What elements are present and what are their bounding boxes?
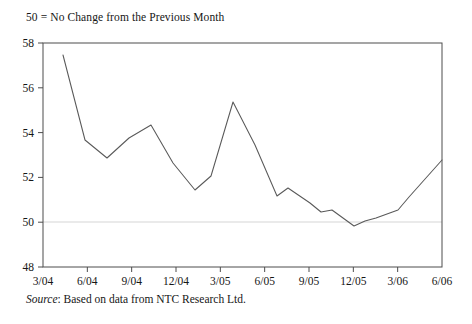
x-axis-tick-label: 6/04 bbox=[77, 275, 98, 287]
x-axis-tick-label: 9/05 bbox=[299, 275, 320, 287]
x-axis-tick-label: 3/05 bbox=[210, 275, 231, 287]
y-axis-tick-label: 52 bbox=[23, 171, 35, 183]
y-axis-labels: 485052545658 bbox=[23, 37, 35, 273]
y-axis-tick-label: 50 bbox=[23, 216, 35, 228]
y-axis-tick-label: 58 bbox=[23, 37, 35, 49]
source-note: Source: Based on data from NTC Research … bbox=[26, 293, 246, 305]
x-axis-tick-label: 6/05 bbox=[254, 275, 275, 287]
source-label: Source bbox=[26, 293, 58, 305]
source-text: : Based on data from NTC Research Ltd. bbox=[58, 293, 246, 305]
chart-svg: 485052545658 3/046/049/0412/043/056/059/… bbox=[0, 0, 472, 324]
x-axis-labels: 3/046/049/0412/043/056/059/0512/053/066/… bbox=[33, 275, 453, 287]
line-chart: 485052545658 3/046/049/0412/043/056/059/… bbox=[0, 0, 472, 324]
x-axis-tick-label: 12/04 bbox=[163, 275, 189, 287]
x-axis-tick-label: 3/04 bbox=[33, 275, 54, 287]
x-axis-tick-label: 9/04 bbox=[121, 275, 142, 287]
x-axis-tick-label: 12/05 bbox=[340, 275, 366, 287]
y-axis-tick-label: 54 bbox=[23, 127, 35, 139]
x-axis-tick-label: 6/06 bbox=[432, 275, 453, 287]
y-axis-tick-label: 48 bbox=[23, 261, 35, 273]
x-axis-ticks bbox=[87, 267, 397, 272]
y-axis-tick-label: 56 bbox=[23, 82, 35, 94]
y-axis-ticks bbox=[38, 43, 43, 267]
data-series-line bbox=[63, 55, 442, 226]
x-axis-tick-label: 3/06 bbox=[387, 275, 408, 287]
